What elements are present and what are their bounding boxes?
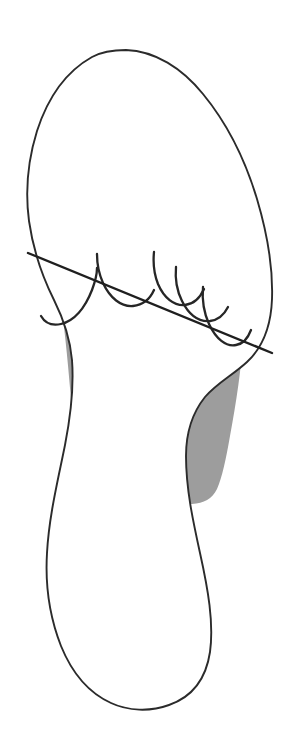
foot-diagram-svg [0,0,290,746]
figure-root [0,0,290,746]
